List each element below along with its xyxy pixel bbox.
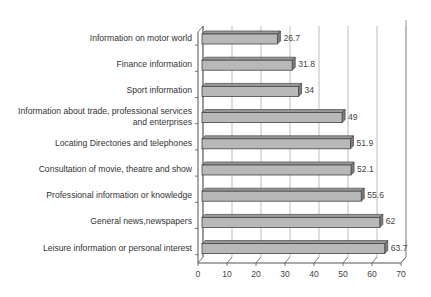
bar-top-face [202, 241, 388, 244]
x-tick-label: 30 [275, 269, 295, 279]
bar [202, 139, 351, 149]
x-tick-label: 0 [188, 269, 208, 279]
category-label-line: General news,newspapers [90, 216, 192, 227]
value-label: 31.8 [298, 59, 315, 69]
category-label-line: Information on motor world [90, 33, 192, 44]
horizontal-bar-chart: 26.7Information on motor world31.8Financ… [0, 0, 431, 297]
bar-top-face [202, 31, 280, 34]
bar-top-face [202, 83, 302, 86]
value-label: 34 [305, 85, 315, 95]
category-label: Information on motor world [90, 33, 192, 44]
value-label: 51.9 [357, 138, 374, 148]
floor-depth-line [198, 257, 203, 263]
value-label: 49 [348, 112, 358, 122]
floor-right-edge [401, 257, 406, 263]
bar [202, 165, 351, 175]
bar [202, 86, 299, 96]
bar [202, 34, 277, 44]
category-label-line: and enterprises [18, 117, 192, 128]
floor-depth-line [343, 257, 348, 263]
bar-top-face [202, 57, 295, 60]
category-label: Sport information [127, 85, 192, 96]
floor-depth-line [285, 257, 290, 263]
x-tick-label: 60 [362, 269, 382, 279]
bar [202, 244, 385, 254]
bar [202, 60, 292, 70]
category-label-line: Consultation of movie, theatre and show [39, 164, 192, 175]
category-label: Finance information [117, 59, 192, 70]
floor-depth-line [227, 257, 232, 263]
bar-top-face [202, 214, 383, 217]
category-label: General news,newspapers [90, 216, 192, 227]
category-label-line: Professional information or knowledge [46, 190, 192, 201]
value-label: 26.7 [283, 33, 300, 43]
floor-depth-line [372, 257, 377, 263]
bar [202, 217, 380, 227]
value-label: 55.6 [367, 190, 384, 200]
category-label-line: Information about trade, professional se… [18, 106, 192, 117]
y-axis-top-depth [198, 26, 203, 32]
category-label: Information about trade, professional se… [18, 106, 192, 128]
category-label: Consultation of movie, theatre and show [39, 164, 192, 175]
bar-top-face [202, 110, 345, 113]
x-tick-label: 50 [333, 269, 353, 279]
category-label: Leisure information or personal interest [43, 243, 192, 254]
value-label: 52.1 [357, 164, 374, 174]
category-label: Professional information or knowledge [46, 190, 192, 201]
bar-top-face [202, 188, 364, 191]
x-tick-label: 40 [304, 269, 324, 279]
bar [202, 191, 361, 201]
x-tick-label: 10 [217, 269, 237, 279]
category-label-line: Finance information [117, 59, 192, 70]
bar [202, 113, 342, 123]
bar-top-face [202, 136, 354, 139]
x-tick-label: 70 [391, 269, 411, 279]
value-label: 62 [386, 216, 396, 226]
category-label-line: Sport information [127, 85, 192, 96]
value-label: 63.7 [391, 243, 408, 253]
category-label: Locating Directories and telephones [55, 138, 192, 149]
bar-top-face [202, 162, 354, 165]
floor-depth-line [314, 257, 319, 263]
category-label-line: Locating Directories and telephones [55, 138, 192, 149]
category-label-line: Leisure information or personal interest [43, 243, 192, 254]
floor-depth-line [256, 257, 261, 263]
x-tick-label: 20 [246, 269, 266, 279]
